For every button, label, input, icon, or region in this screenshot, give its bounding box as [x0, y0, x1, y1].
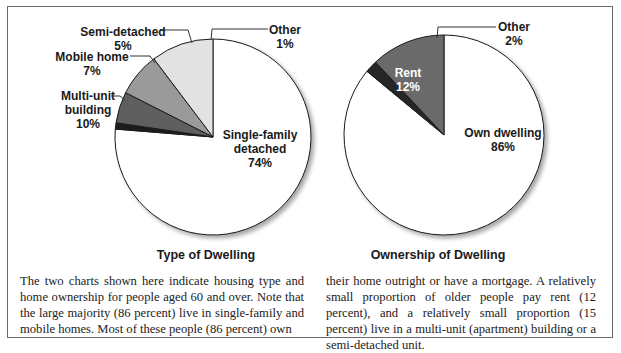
label-multi-unit-pct: 10%: [76, 117, 100, 131]
label-other-right: Other: [498, 20, 530, 34]
label-rent-pct: 12%: [396, 80, 420, 94]
label-multi-unit-line2: building: [65, 103, 112, 117]
label-mobile-home-pct: 7%: [83, 64, 101, 78]
caption-right: their home outright or have a mortgage. …: [326, 273, 596, 353]
label-single-family: Single-family: [223, 128, 298, 142]
label-other-left-pct: 1%: [276, 37, 294, 51]
label-rent: Rent: [395, 66, 422, 80]
label-own-dwelling: Own dwelling: [464, 126, 541, 140]
label-single-family-line2: detached: [234, 142, 287, 156]
label-mobile-home: Mobile home: [55, 50, 129, 64]
chart-title-ownership-of-dwelling: Ownership of Dwelling: [371, 248, 506, 262]
label-own-dwelling-pct: 86%: [491, 140, 515, 154]
label-multi-unit: Multi-unit: [61, 89, 115, 103]
label-semi-detached: Semi-detached: [80, 25, 165, 39]
label-other-right-pct: 2%: [505, 34, 523, 48]
caption-left: The two charts shown here indicate housi…: [20, 273, 304, 337]
label-single-family-pct: 74%: [248, 156, 272, 170]
chart-title-type-of-dwelling: Type of Dwelling: [157, 248, 255, 262]
label-other-left: Other: [269, 23, 301, 37]
